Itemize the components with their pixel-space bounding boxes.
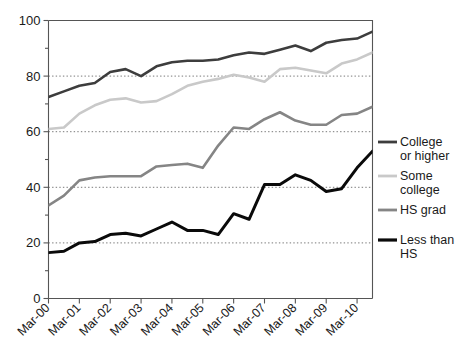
chart-figure: 020406080100Mar-00Mar-01Mar-02Mar-03Mar-… xyxy=(0,0,463,355)
legend-label-2: HS grad xyxy=(400,203,446,217)
legend-label-1: Some xyxy=(400,169,433,183)
x-tick-label-8: Mar-08 xyxy=(262,301,300,339)
legend-label-0: College xyxy=(400,135,442,149)
x-tick-label-5: Mar-05 xyxy=(169,301,207,339)
legend-label-3: Less than xyxy=(400,233,454,247)
series-line-0 xyxy=(49,32,373,97)
x-tick-label-0: Mar-00 xyxy=(15,301,53,339)
x-tick-label-1: Mar-01 xyxy=(46,301,84,339)
y-tick-label-100: 100 xyxy=(19,13,41,28)
y-tick-label-40: 40 xyxy=(26,180,40,195)
x-tick-label-2: Mar-02 xyxy=(76,301,114,339)
line-chart: 020406080100Mar-00Mar-01Mar-02Mar-03Mar-… xyxy=(0,0,463,355)
legend-label-0-line2: or higher xyxy=(400,149,449,163)
x-tick-label-7: Mar-07 xyxy=(231,301,269,339)
y-tick-label-60: 60 xyxy=(26,124,40,139)
plot-frame xyxy=(49,21,373,299)
x-tick-label-4: Mar-04 xyxy=(138,301,176,339)
x-tick-label-3: Mar-03 xyxy=(107,301,145,339)
legend-label-1-line2: college xyxy=(400,183,440,197)
series-line-1 xyxy=(49,52,373,128)
x-tick-label-6: Mar-06 xyxy=(200,301,238,339)
x-tick-label-9: Mar-09 xyxy=(292,301,330,339)
y-tick-label-80: 80 xyxy=(26,69,40,84)
x-tick-label-10: Mar-10 xyxy=(323,301,361,339)
y-tick-label-20: 20 xyxy=(26,235,40,250)
series-line-3 xyxy=(49,151,388,252)
legend-label-3-line2: HS xyxy=(400,247,417,261)
